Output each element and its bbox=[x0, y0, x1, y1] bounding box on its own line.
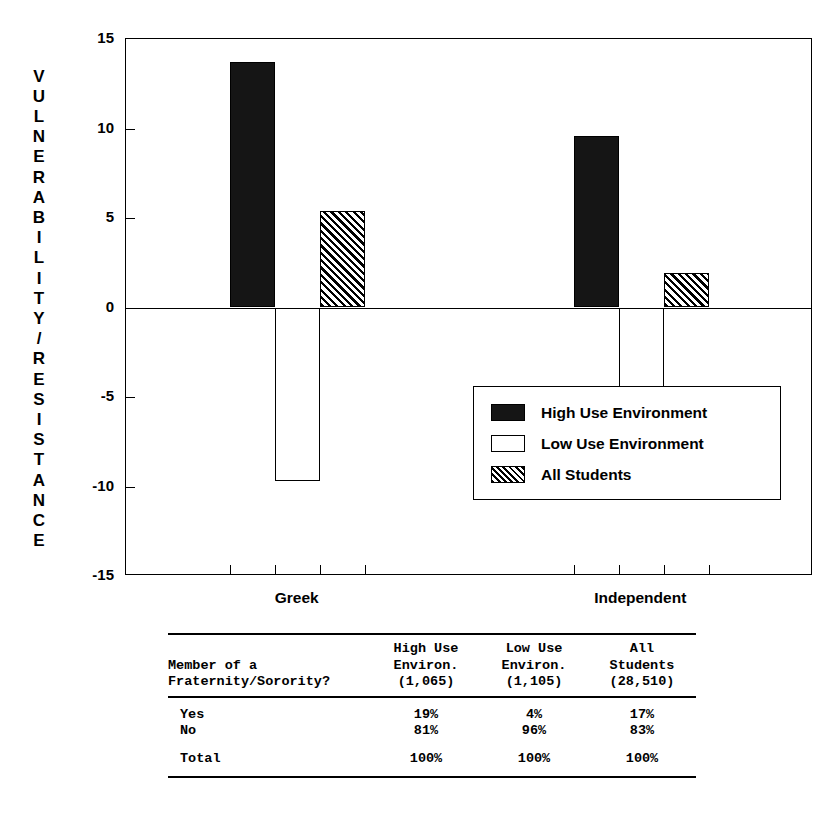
y-axis-title-letter: R bbox=[33, 349, 45, 369]
table-cell: 4% bbox=[480, 707, 588, 724]
x-axis-tick bbox=[709, 565, 710, 574]
y-axis-tick-label: -15 bbox=[62, 566, 114, 583]
bar-all-students-independent bbox=[664, 273, 709, 307]
y-axis-title-letter: U bbox=[33, 87, 45, 107]
y-axis-tick bbox=[126, 129, 135, 130]
legend-item-low-use: Low Use Environment bbox=[491, 428, 780, 459]
y-axis-tick-label: 15 bbox=[62, 29, 114, 46]
bar-high-use-independent bbox=[574, 136, 619, 308]
table-column-header-high-use: High Use Environ. (1,065) bbox=[372, 635, 480, 697]
legend-item-all-students: All Students bbox=[491, 459, 780, 490]
table-cell: 83% bbox=[588, 723, 696, 740]
table-cell: 100% bbox=[480, 751, 588, 768]
y-axis-title-letter: / bbox=[37, 329, 42, 349]
table-column-header-all-students: All Students (28,510) bbox=[588, 635, 696, 697]
table-row-label-yes: Yes bbox=[168, 707, 372, 724]
legend-swatch-hatch-icon bbox=[491, 466, 525, 483]
table-row-header: Member of a Fraternity/Sorority? bbox=[168, 635, 372, 697]
y-axis-tick-label: 0 bbox=[62, 298, 114, 315]
y-axis-title-letter: V bbox=[33, 67, 44, 87]
y-axis-title-letter: E bbox=[33, 147, 44, 167]
y-axis-title-letter: I bbox=[37, 228, 42, 248]
table-spacer bbox=[168, 740, 696, 751]
table-spacer bbox=[168, 698, 696, 707]
y-axis-title-letter: R bbox=[33, 168, 45, 188]
table-row-label-no: No bbox=[168, 723, 372, 740]
legend-swatch-hollow-icon bbox=[491, 435, 525, 452]
data-table: Member of a Fraternity/Sorority? High Us… bbox=[168, 633, 696, 778]
y-axis-title-letter: E bbox=[33, 531, 44, 551]
legend-label: All Students bbox=[541, 466, 631, 484]
x-axis-tick bbox=[365, 565, 366, 574]
table-cell: 100% bbox=[588, 751, 696, 768]
table-row: No 81% 96% 83% bbox=[168, 723, 696, 740]
y-axis-tick bbox=[126, 487, 135, 488]
y-axis-title-letter: N bbox=[33, 491, 45, 511]
y-axis-title-letter: I bbox=[37, 410, 42, 430]
legend-label: High Use Environment bbox=[541, 404, 707, 422]
table-spacer bbox=[168, 767, 696, 777]
y-axis-tick-label: -5 bbox=[62, 387, 114, 404]
table-cell: 17% bbox=[588, 707, 696, 724]
legend-swatch-solid-icon bbox=[491, 404, 525, 421]
y-axis-title-letter: A bbox=[33, 471, 45, 491]
bar-high-use-greek bbox=[230, 62, 275, 307]
y-axis-title-letter: E bbox=[33, 370, 44, 390]
y-axis-title-letter: A bbox=[33, 188, 45, 208]
table-cell: 19% bbox=[372, 707, 480, 724]
y-axis-title-letter: I bbox=[37, 269, 42, 289]
y-axis-title-letter: N bbox=[33, 127, 45, 147]
y-axis-title-letter: B bbox=[33, 208, 45, 228]
legend-label: Low Use Environment bbox=[541, 435, 704, 453]
y-axis-title-letter: Y bbox=[33, 309, 44, 329]
data-table-container: Member of a Fraternity/Sorority? High Us… bbox=[168, 633, 696, 778]
y-axis-tick-label: 5 bbox=[62, 208, 114, 225]
y-axis-title-letter: S bbox=[33, 430, 44, 450]
y-axis-title-letter: T bbox=[34, 289, 44, 309]
table-row: Yes 19% 4% 17% bbox=[168, 707, 696, 724]
legend-item-high-use: High Use Environment bbox=[491, 397, 780, 428]
bar-low-use-independent bbox=[619, 308, 664, 389]
chart-legend: High Use Environment Low Use Environment… bbox=[473, 386, 781, 500]
table-row-label-total: Total bbox=[168, 751, 372, 768]
table-total-row: Total 100% 100% 100% bbox=[168, 751, 696, 768]
y-axis-tick bbox=[126, 308, 135, 309]
plot-area: High Use Environment Low Use Environment… bbox=[125, 38, 812, 575]
y-axis-tick bbox=[126, 218, 135, 219]
bar-all-students-greek bbox=[320, 211, 365, 308]
table-rule-bottom bbox=[168, 777, 696, 778]
table-cell: 96% bbox=[480, 723, 588, 740]
x-axis-tick bbox=[275, 565, 276, 574]
y-axis-title-letter: S bbox=[33, 390, 44, 410]
table-header-row: Member of a Fraternity/Sorority? High Us… bbox=[168, 635, 696, 697]
bar-low-use-greek bbox=[275, 308, 320, 482]
x-axis-tick bbox=[230, 565, 231, 574]
x-axis-tick bbox=[664, 565, 665, 574]
table-cell: 100% bbox=[372, 751, 480, 768]
y-axis-title: V U L N E R A B I L I T Y / R E S I S T … bbox=[26, 44, 52, 574]
y-axis-title-letter: T bbox=[34, 450, 44, 470]
y-axis-title-letter: L bbox=[34, 248, 44, 268]
y-axis-title-letter: C bbox=[33, 511, 45, 531]
x-axis-tick bbox=[320, 565, 321, 574]
y-axis-tick-label: 10 bbox=[62, 119, 114, 136]
x-axis-tick bbox=[619, 565, 620, 574]
y-axis-title-letter: L bbox=[34, 107, 44, 127]
chart-figure: V U L N E R A B I L I T Y / R E S I S T … bbox=[0, 0, 840, 826]
y-axis-tick bbox=[126, 397, 135, 398]
x-axis-category-label: Independent bbox=[540, 589, 740, 607]
zero-baseline bbox=[126, 308, 811, 309]
y-axis-tick-label: -10 bbox=[62, 477, 114, 494]
x-axis-category-label: Greek bbox=[197, 589, 397, 607]
table-cell: 81% bbox=[372, 723, 480, 740]
x-axis-tick bbox=[574, 565, 575, 574]
table-column-header-low-use: Low Use Environ. (1,105) bbox=[480, 635, 588, 697]
